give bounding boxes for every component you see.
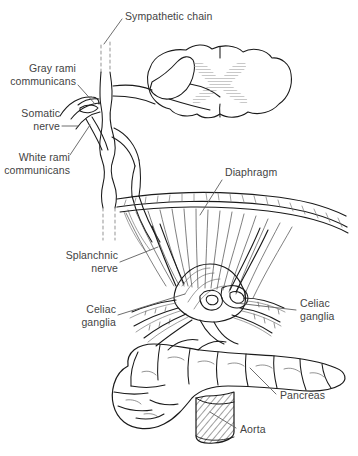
- label-celiac-ganglia-left: Celiac ganglia: [0, 303, 116, 328]
- leader-white-rami: [70, 125, 90, 155]
- leader-celiac-ganglia-left: [118, 294, 185, 315]
- celiac-ganglia: [130, 264, 285, 346]
- label-somatic-nerve: Somatic nerve: [0, 107, 60, 132]
- label-aorta: Aorta: [240, 423, 266, 436]
- label-celiac-ganglia-right: Celiac ganglia: [300, 297, 335, 322]
- label-pancreas: Pancreas: [280, 389, 325, 402]
- aorta: [196, 392, 234, 443]
- leader-splanchnic-nerve: [120, 247, 158, 262]
- rami-communicans: [78, 99, 141, 196]
- leader-sympathetic-chain: [104, 19, 122, 44]
- leader-lines: [62, 19, 296, 428]
- leader-gray-rami: [78, 85, 95, 104]
- label-splanchnic-nerve: Splanchnic nerve: [0, 249, 118, 274]
- gray-matter-butterfly: [192, 62, 247, 104]
- label-sympathetic-chain: Sympathetic chain: [125, 10, 213, 23]
- sympathetic-chain: [100, 42, 117, 240]
- somatic-nerve: [60, 85, 155, 129]
- diaphragm: [117, 192, 348, 298]
- label-diaphragm: Diaphragm: [225, 166, 277, 179]
- label-white-rami-communicans: White rami communicans: [0, 151, 70, 176]
- leader-pancreas: [250, 368, 276, 394]
- label-gray-rami-communicans: Gray rami communicans: [0, 62, 76, 87]
- anatomical-figure: Sympathetic chain Gray rami communicans …: [0, 0, 358, 456]
